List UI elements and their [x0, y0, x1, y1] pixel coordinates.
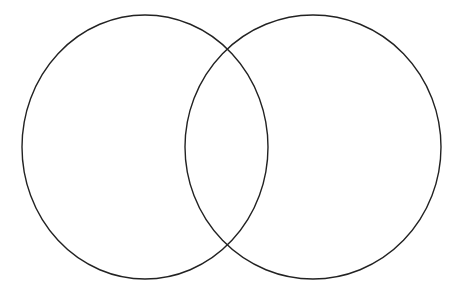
left-set-circle [22, 15, 268, 279]
venn-diagram [0, 0, 460, 294]
right-set-circle [185, 15, 441, 279]
